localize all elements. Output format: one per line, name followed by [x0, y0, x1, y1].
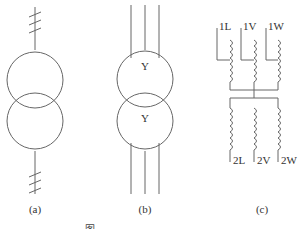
terminal-1L: 1L — [219, 20, 231, 32]
figure-caption: 图 ... — [85, 221, 108, 229]
terminal-2W: 2W — [281, 154, 297, 166]
subfigure-label-a: (a) — [29, 203, 41, 215]
subfigure-label-b: (b) — [139, 203, 152, 215]
terminal-1V: 1V — [243, 20, 256, 32]
secondary-connection-label: Y — [141, 112, 149, 124]
terminal-2L: 2L — [233, 154, 245, 166]
primary-connection-label: Y — [141, 60, 149, 72]
terminal-1W: 1W — [268, 20, 284, 32]
panel-a-symbol — [7, 7, 63, 194]
panel-c-windings — [217, 28, 281, 162]
panel-b-symbol — [117, 5, 173, 194]
subfigure-label-c: (c) — [256, 203, 268, 215]
terminal-2V: 2V — [257, 154, 270, 166]
